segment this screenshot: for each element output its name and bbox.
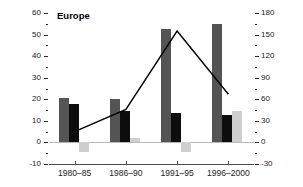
x-axis-tick <box>126 161 127 164</box>
left-axis-tick <box>44 99 48 100</box>
left-axis-tick-label: 40 <box>19 52 41 60</box>
x-axis-tick <box>75 161 76 164</box>
left-axis-tick-label: 0 <box>19 138 41 146</box>
chart-europe: Europe -100102030405060 -300306090120150… <box>0 0 303 187</box>
x-axis-line <box>49 164 254 165</box>
x-axis-tick <box>177 161 178 164</box>
left-axis-minor-tick <box>46 89 48 90</box>
right-axis-tick-label: 120 <box>261 52 285 60</box>
left-axis-minor-tick <box>46 67 48 68</box>
line-series-layer <box>49 13 254 164</box>
left-axis-minor-tick <box>46 45 48 46</box>
left-axis-tick <box>44 78 48 79</box>
right-axis-tick <box>255 121 259 122</box>
left-axis-tick-label: 60 <box>19 9 41 17</box>
left-axis-minor-tick <box>46 132 48 133</box>
left-axis-tick-label: 10 <box>19 117 41 125</box>
right-axis-minor-tick <box>255 67 257 68</box>
line-series <box>75 31 229 132</box>
x-axis-tick <box>228 161 229 164</box>
right-axis-tick <box>255 164 259 165</box>
right-axis-minor-tick <box>255 24 257 25</box>
right-axis-minor-tick <box>255 132 257 133</box>
right-axis-minor-tick <box>255 45 257 46</box>
right-axis-tick-label: 30 <box>261 117 285 125</box>
right-axis-tick <box>255 13 259 14</box>
right-axis-tick <box>255 78 259 79</box>
right-axis-minor-tick <box>255 153 257 154</box>
right-axis-tick-label: 180 <box>261 9 285 17</box>
right-axis-tick <box>255 142 259 143</box>
left-axis-tick <box>44 164 48 165</box>
left-axis-tick-label: 30 <box>19 74 41 82</box>
left-axis-tick <box>44 142 48 143</box>
left-axis-tick <box>44 121 48 122</box>
left-axis-tick <box>44 13 48 14</box>
left-axis-tick-label: -10 <box>19 160 41 168</box>
x-category-label: 1996–2000 <box>193 169 263 178</box>
right-axis-minor-tick <box>255 110 257 111</box>
left-axis-tick <box>44 35 48 36</box>
left-axis-minor-tick <box>46 153 48 154</box>
left-axis-minor-tick <box>46 24 48 25</box>
right-axis-tick-label: 0 <box>261 138 285 146</box>
right-axis-tick-label: 150 <box>261 31 285 39</box>
right-axis-minor-tick <box>255 89 257 90</box>
left-axis-tick <box>44 56 48 57</box>
right-axis-tick <box>255 35 259 36</box>
right-axis-tick-label: 60 <box>261 95 285 103</box>
plot-area <box>49 13 254 164</box>
right-axis-tick-label: 90 <box>261 74 285 82</box>
right-axis-tick <box>255 56 259 57</box>
right-axis-tick <box>255 99 259 100</box>
left-axis-minor-tick <box>46 110 48 111</box>
left-axis-tick-label: 20 <box>19 95 41 103</box>
right-axis-tick-label: -30 <box>261 160 285 168</box>
left-axis-tick-label: 50 <box>19 31 41 39</box>
